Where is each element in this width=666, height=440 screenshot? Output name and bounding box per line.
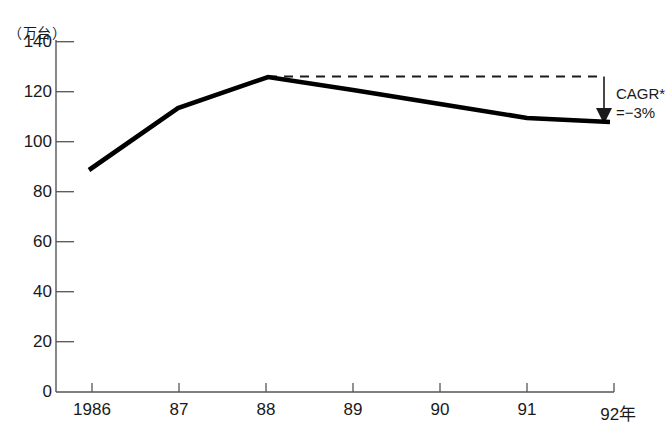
x-axis-ticks [92, 383, 614, 392]
x-tick-91: 91 [518, 400, 537, 420]
x-tick-92: 92年 [600, 400, 636, 425]
cagr-annotation-line1: CAGR* [616, 84, 665, 103]
x-tick-88: 88 [257, 400, 276, 420]
cagr-annotation-line2: =−3% [616, 103, 665, 122]
plot-area [0, 0, 666, 440]
x-tick-90: 90 [431, 400, 450, 420]
x-tick-87: 87 [170, 400, 189, 420]
y-axis-ticks [56, 42, 74, 342]
x-tick-89: 89 [344, 400, 363, 420]
x-tick-1986: 1986 [73, 400, 111, 420]
cagr-annotation: CAGR* =−3% [616, 84, 665, 122]
line-chart: （万台） 140 120 100 80 60 40 20 0 [0, 0, 666, 440]
series-line-daisuu [89, 77, 610, 170]
